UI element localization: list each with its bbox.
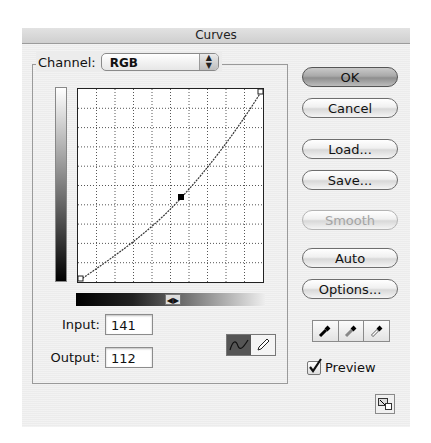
- save-button[interactable]: Save...: [302, 170, 398, 190]
- white-eyedropper-button[interactable]: [364, 321, 389, 341]
- auto-button[interactable]: Auto: [302, 248, 398, 268]
- load-button[interactable]: Load...: [302, 139, 398, 159]
- options-button[interactable]: Options...: [302, 279, 398, 299]
- curve-tool-group: [226, 334, 276, 356]
- preview-label: Preview: [325, 360, 376, 375]
- expand-view-button[interactable]: [375, 394, 395, 414]
- output-label: Output:: [40, 350, 100, 365]
- cancel-button[interactable]: Cancel: [302, 98, 398, 118]
- gray-eyedropper-button[interactable]: [339, 321, 365, 341]
- curve-tool-icon: [229, 338, 249, 352]
- pencil-tool-button[interactable]: [251, 335, 275, 355]
- curve-graph[interactable]: [77, 88, 264, 283]
- input-gradient-bar: ◀▶: [76, 293, 265, 306]
- gray-eyedropper-icon: [344, 324, 358, 338]
- black-eyedropper-button[interactable]: [313, 321, 339, 341]
- output-gradient-bar: [55, 87, 67, 282]
- checkmark-icon: [307, 358, 323, 374]
- preview-checkbox[interactable]: [307, 361, 321, 375]
- expand-view-icon: [378, 398, 392, 410]
- input-field[interactable]: 141: [105, 314, 153, 335]
- eyedropper-group: [312, 320, 390, 342]
- preview-checkbox-row[interactable]: Preview: [307, 360, 376, 375]
- pencil-icon: [255, 337, 271, 353]
- channel-row: Channel: RGB ▲▼: [36, 52, 222, 72]
- black-eyedropper-icon: [318, 324, 332, 338]
- title-bar[interactable]: Curves: [22, 28, 410, 44]
- curve-control-point: [178, 194, 184, 200]
- smooth-button[interactable]: Smooth: [302, 210, 398, 230]
- updown-arrows-icon: ▲▼: [199, 54, 218, 70]
- input-label: Input:: [40, 317, 100, 332]
- curve-endpoint-black: [78, 276, 83, 281]
- curve-tool-button[interactable]: [227, 335, 251, 355]
- window-title: Curves: [195, 28, 237, 42]
- channel-value: RGB: [110, 56, 138, 70]
- gradient-direction-toggle[interactable]: ◀▶: [165, 294, 181, 305]
- channel-select[interactable]: RGB ▲▼: [101, 53, 219, 71]
- ok-button[interactable]: OK: [302, 67, 398, 87]
- white-eyedropper-icon: [370, 324, 384, 338]
- channel-label: Channel:: [38, 55, 96, 70]
- curve-plot: [78, 89, 263, 282]
- curve-endpoint-white: [258, 89, 263, 94]
- output-field[interactable]: 112: [105, 347, 153, 368]
